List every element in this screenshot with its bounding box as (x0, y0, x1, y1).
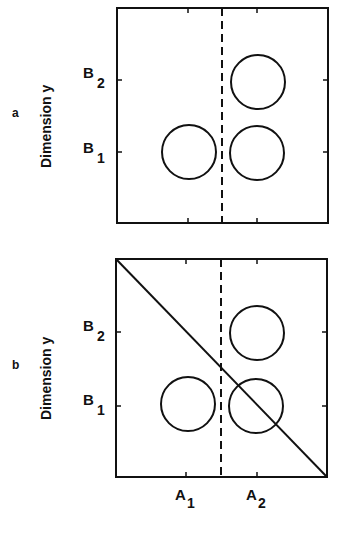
svg-text:2: 2 (258, 495, 266, 511)
panel-label-b: b (12, 358, 19, 372)
svg-text:A: A (175, 486, 186, 503)
panel-b: b Dimension y B 2 B 1 A 1 A 2 (12, 259, 327, 511)
svg-text:1: 1 (187, 495, 195, 511)
panel-label-a: a (12, 106, 19, 120)
svg-text:B: B (83, 317, 94, 334)
y-axis-label-a: Dimension y (38, 85, 54, 168)
figure-canvas: a Dimension y B 2 B 1 b Dimension y B 2 … (0, 0, 337, 540)
svg-text:1: 1 (97, 150, 105, 166)
stimulus-circle-a2b1 (229, 379, 283, 433)
svg-text:B: B (83, 64, 94, 81)
stimulus-circle-a1b1 (162, 125, 216, 179)
stimulus-circle-a2b1 (230, 126, 284, 180)
svg-text:A: A (246, 486, 257, 503)
x-tick-label-a2: A 2 (246, 486, 266, 511)
svg-text:B: B (83, 391, 94, 408)
stimulus-circles-a (162, 55, 285, 180)
y-tick-label-b2-a: B 2 (83, 64, 105, 91)
y-tick-label-b1-b: B 1 (83, 391, 105, 418)
stimulus-circle-a2b2 (231, 55, 285, 109)
y-tick-label-b2-b: B 2 (83, 317, 105, 344)
svg-text:2: 2 (97, 328, 105, 344)
svg-text:B: B (83, 139, 94, 156)
stimulus-circle-a1b1 (161, 377, 215, 431)
x-tick-label-a1: A 1 (175, 486, 195, 511)
y-axis-label-b: Dimension y (38, 337, 54, 420)
svg-text:1: 1 (97, 402, 105, 418)
y-tick-label-b1-a: B 1 (83, 139, 105, 166)
svg-text:2: 2 (97, 75, 105, 91)
stimulus-circle-a2b2 (230, 306, 284, 360)
panel-a: a Dimension y B 2 B 1 (12, 8, 328, 223)
